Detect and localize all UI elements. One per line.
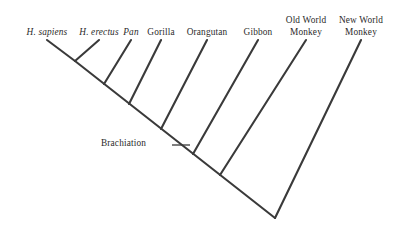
- branch-gorilla: [129, 40, 161, 104]
- branch-gibbon: [193, 40, 258, 154]
- taxon-label-line1: Pan: [123, 27, 138, 37]
- taxon-label-pan: Pan: [123, 27, 138, 39]
- branch-h-erectus: [75, 40, 99, 61]
- taxon-label-line1: H. erectus: [79, 27, 118, 37]
- branch-pan: [104, 40, 131, 84]
- taxon-label-line1: Orangutan: [187, 27, 228, 37]
- taxon-label-line1: New World: [339, 15, 383, 25]
- taxon-label-h-erectus: H. erectus: [79, 27, 118, 39]
- taxon-label-line2: Monkey: [339, 27, 383, 39]
- phylogenetic-tree-figure: H. sapiensH. erectusPanGorillaOrangutanG…: [0, 0, 397, 231]
- taxon-label-new-world-monkey: New WorldMonkey: [339, 15, 383, 38]
- taxon-label-gibbon: Gibbon: [244, 27, 273, 39]
- taxon-label-line1: H. sapiens: [27, 27, 68, 37]
- branch-orangutan: [161, 40, 207, 129]
- taxon-label-old-world-monkey: Old WorldMonkey: [286, 15, 326, 38]
- branch-old-world-monkey: [220, 40, 306, 175]
- taxon-label-line1: Old World: [286, 15, 326, 25]
- branch-lines: [47, 40, 361, 218]
- taxon-label-gorilla: Gorilla: [147, 27, 174, 39]
- taxon-label-line2: Monkey: [286, 27, 326, 39]
- taxon-label-h-sapiens: H. sapiens: [27, 27, 68, 39]
- taxon-label-line1: Gorilla: [147, 27, 174, 37]
- taxon-label-line1: Gibbon: [244, 27, 273, 37]
- taxon-label-orangutan: Orangutan: [187, 27, 228, 39]
- brachiation-annotation-label: Brachiation: [101, 138, 146, 149]
- branch-h-sapiens: [47, 40, 75, 61]
